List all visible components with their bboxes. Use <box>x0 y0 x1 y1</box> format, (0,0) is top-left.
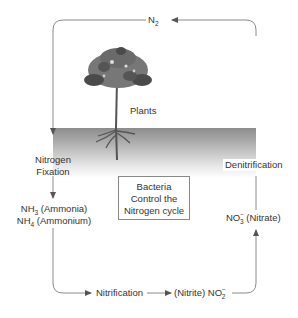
tree-canopy <box>84 47 152 88</box>
bacteria-box-line-3: Nitrogen cycle <box>119 205 189 217</box>
ammonia-formula: NH <box>21 203 35 214</box>
nitrite-formula: NO <box>208 287 222 298</box>
n2-subscript: 2 <box>155 20 159 27</box>
ammonia-to-nitrification-line <box>53 228 91 293</box>
nitrate-subscript: 3 <box>240 218 244 225</box>
ammonia-ammonium-label: NH3 (Ammonia) NH4 (Ammonium) <box>13 203 95 227</box>
nitrogen-fixation-line-2: Fixation <box>24 166 82 178</box>
nitrogen-fixation-label: Nitrogen Fixation <box>24 154 82 178</box>
nitrite-subscript: 2 <box>222 293 226 300</box>
nitrogen-fixation-line-1: Nitrogen <box>24 154 82 166</box>
nitrogen-cycle-diagram: N2 Plants Nitrogen Fixation Bacteria Con… <box>0 0 298 318</box>
ammonium-name: (Ammonium) <box>37 215 91 226</box>
denitrification-label: Denitrification <box>223 159 285 171</box>
bacteria-box-line-1: Bacteria <box>119 181 189 193</box>
nitrate-charge: − <box>240 211 244 218</box>
ammonium-formula: NH <box>17 215 31 226</box>
nitrite-name: (Nitrite) <box>174 287 205 298</box>
tree-trunk <box>116 80 117 160</box>
ammonium-subscript: 4 <box>31 221 35 228</box>
denitrification-to-n2-line <box>172 20 256 36</box>
nitrate-name: (Nitrate) <box>246 212 280 223</box>
plants-label: Plants <box>130 105 156 117</box>
n2-label: N2 <box>146 14 161 26</box>
bacteria-box: Bacteria Control the Nitrogen cycle <box>118 176 190 220</box>
bacteria-box-line-2: Control the <box>119 193 189 205</box>
nitrite-charge: − <box>222 286 226 293</box>
nitrite-label: (Nitrite) NO−2 <box>174 287 225 299</box>
nitrification-label: Nitrification <box>96 287 143 299</box>
nitrate-label: NO−3 (Nitrate) <box>224 212 283 224</box>
ammonia-label: NH3 (Ammonia) <box>13 203 95 215</box>
nitrate-formula: NO <box>226 212 240 223</box>
nitrite-to-nitrate-line <box>232 230 256 293</box>
ammonium-label: NH4 (Ammonium) <box>13 215 95 227</box>
n2-formula: N <box>148 14 155 25</box>
ammonia-name: (Ammonia) <box>41 203 87 214</box>
